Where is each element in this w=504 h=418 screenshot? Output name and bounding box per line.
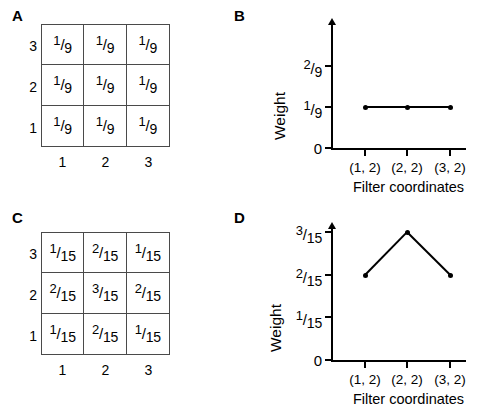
x-axis-line <box>331 148 466 150</box>
panel-letter-a: A <box>12 8 23 23</box>
kernel-a-cell-r1c2: 1/9 <box>84 106 126 146</box>
kernel-c-cell-r1c2: 2/15 <box>84 314 126 354</box>
kernel-a-cell-r3c1: 1/9 <box>42 25 84 65</box>
y-tick-label-3-15: 3/15 <box>282 224 322 245</box>
y-axis-line <box>331 228 333 362</box>
fraction-value: 1/9 <box>53 115 72 136</box>
fraction-value: 1/9 <box>139 34 158 55</box>
x-tick-2 <box>406 150 408 156</box>
fraction-value: 2/15 <box>50 282 76 303</box>
data-point-2 <box>405 230 410 235</box>
kernel-a-row-label-2: 2 <box>21 80 37 94</box>
x-tick-1 <box>364 362 366 368</box>
kernel-a-cell-r2c3: 1/9 <box>127 65 169 105</box>
kernel-c-cell-r2c2: 3/15 <box>84 273 126 313</box>
y-tick-1-15 <box>325 316 331 318</box>
kernel-c-col-label-3: 3 <box>127 363 170 377</box>
kernel-c-cells: 1/15 2/15 1/15 2/15 3/15 2/15 1/15 2/15 <box>41 232 170 355</box>
x-tick-3 <box>449 150 451 156</box>
fraction-value: 1/9 <box>53 34 72 55</box>
kernel-a-cell-r3c2: 1/9 <box>84 25 126 65</box>
fraction-value: 2/15 <box>92 323 118 344</box>
figure-filter-kernels: A 1/9 1/9 1/9 1/9 1/9 1/9 1/9 <box>0 0 504 418</box>
y-axis-title: Weight <box>268 304 284 352</box>
x-axis-title: Filter coordinates <box>336 180 481 195</box>
x-tick-3 <box>449 362 451 368</box>
kernel-c-cell-r2c3: 2/15 <box>127 273 169 313</box>
data-point-3 <box>448 105 453 110</box>
y-tick-label-0: 0 <box>286 353 322 368</box>
y-tick-label-2-9: 2/9 <box>290 58 322 79</box>
y-tick-2-15 <box>325 274 331 276</box>
fraction-value: 1/9 <box>96 115 115 136</box>
x-axis-line <box>331 360 466 362</box>
data-point-1 <box>363 273 368 278</box>
kernel-c-row-label-3: 3 <box>21 247 37 261</box>
kernel-a-row-label-1: 1 <box>21 121 37 135</box>
data-point-2 <box>405 105 410 110</box>
kernel-a-col-label-3: 3 <box>127 155 170 169</box>
data-line-segment-rising <box>364 231 407 275</box>
kernel-c-cell-r3c2: 2/15 <box>84 233 126 273</box>
data-line-segment-falling <box>406 231 451 275</box>
y-axis-arrow-icon <box>328 222 336 229</box>
kernel-a-cells: 1/9 1/9 1/9 1/9 1/9 1/9 1/9 1/9 <box>41 24 170 147</box>
kernel-a-cell-r2c1: 1/9 <box>42 65 84 105</box>
y-tick-3-15 <box>325 231 331 233</box>
data-point-1 <box>363 105 368 110</box>
kernel-c-col-label-1: 1 <box>41 363 84 377</box>
y-tick-2-9 <box>325 65 331 67</box>
kernel-a-cell-r1c3: 1/9 <box>127 106 169 146</box>
kernel-c-cell-r1c1: 1/15 <box>42 314 84 354</box>
kernel-c-col-label-2: 2 <box>84 363 127 377</box>
kernel-c-cell-r3c1: 1/15 <box>42 233 84 273</box>
fraction-value: 1/9 <box>139 115 158 136</box>
y-axis-arrow-icon <box>328 18 336 25</box>
kernel-a-col-label-2: 2 <box>84 155 127 169</box>
x-tick-label-3: (3, 2) <box>421 161 479 175</box>
fraction-value: 1/9 <box>96 74 115 95</box>
x-tick-1 <box>364 150 366 156</box>
y-tick-label-2-15: 2/15 <box>282 267 322 288</box>
kernel-c-row-label-2: 2 <box>21 288 37 302</box>
fraction-value: 1/15 <box>296 309 322 330</box>
data-point-3 <box>448 273 453 278</box>
y-axis-title: Weight <box>272 92 288 140</box>
y-tick-0 <box>325 359 331 361</box>
kernel-a-cell-r2c2: 1/9 <box>84 65 126 105</box>
y-axis-line <box>331 24 333 150</box>
panel-letter-d: D <box>234 210 245 225</box>
fraction-value: 1/15 <box>50 323 76 344</box>
y-tick-1-9 <box>325 106 331 108</box>
y-tick-0 <box>325 147 331 149</box>
panel-letter-c: C <box>12 210 23 225</box>
fraction-value: 2/9 <box>303 58 322 79</box>
x-axis-title: Filter coordinates <box>336 392 481 407</box>
fraction-value: 1/9 <box>53 74 72 95</box>
fraction-value: 1/15 <box>135 242 161 263</box>
y-tick-label-1-15: 1/15 <box>282 309 322 330</box>
fraction-value: 2/15 <box>92 242 118 263</box>
fraction-value: 1/9 <box>303 99 322 120</box>
kernel-c-cell-r3c3: 1/15 <box>127 233 169 273</box>
x-tick-label-3: (3, 2) <box>421 373 479 387</box>
kernel-a-cell-r1c1: 1/9 <box>42 106 84 146</box>
kernel-c-row-label-1: 1 <box>21 329 37 343</box>
fraction-value: 2/15 <box>135 282 161 303</box>
fraction-value: 1/15 <box>135 323 161 344</box>
kernel-c-cell-r1c3: 1/15 <box>127 314 169 354</box>
y-tick-label-1-9: 1/9 <box>290 99 322 120</box>
panel-letter-b: B <box>234 8 245 23</box>
fraction-value: 2/15 <box>296 267 322 288</box>
fraction-value: 1/15 <box>50 242 76 263</box>
fraction-value: 3/15 <box>92 282 118 303</box>
x-tick-2 <box>406 362 408 368</box>
kernel-a-cell-r3c3: 1/9 <box>127 25 169 65</box>
kernel-a-col-label-1: 1 <box>41 155 84 169</box>
y-tick-label-0: 0 <box>290 141 322 156</box>
kernel-c-cell-r2c1: 2/15 <box>42 273 84 313</box>
fraction-value: 3/15 <box>296 224 322 245</box>
kernel-a-row-label-3: 3 <box>21 39 37 53</box>
fraction-value: 1/9 <box>139 74 158 95</box>
fraction-value: 1/9 <box>96 34 115 55</box>
